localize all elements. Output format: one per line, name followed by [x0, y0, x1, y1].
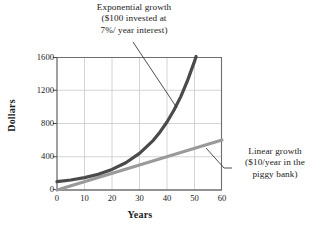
chart-figure: Exponential growth ($100 invested at 7%/… — [0, 0, 320, 232]
y-tick-label-800: 800 — [28, 118, 54, 128]
y-axis-title: Dollars — [6, 86, 17, 146]
y-tick-label-1200: 1200 — [28, 85, 54, 95]
x-tick-label-50: 50 — [185, 193, 205, 203]
x-tick-label-40: 40 — [157, 193, 177, 203]
linear-growth-annotation: Linear growth ($10/year in the piggy ban… — [232, 146, 318, 180]
y-tick-label-400: 400 — [28, 151, 54, 161]
x-tick-label-20: 20 — [102, 193, 122, 203]
y-tick-label-1600: 1600 — [28, 52, 54, 62]
x-tick-label-10: 10 — [75, 193, 95, 203]
exponential-growth-annotation: Exponential growth ($100 invested at 7%/… — [62, 2, 206, 36]
x-tick-label-30: 30 — [130, 193, 150, 203]
x-axis-title: Years — [57, 209, 223, 220]
x-tick-labels: 0 10 20 30 40 50 60 — [0, 193, 320, 209]
x-tick-label-60: 60 — [212, 193, 232, 203]
x-tick-label-0: 0 — [47, 193, 67, 203]
